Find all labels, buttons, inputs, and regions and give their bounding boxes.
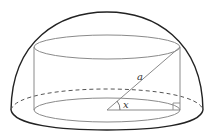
label-a: a <box>137 71 143 82</box>
cylinder-top-ellipse <box>34 35 180 59</box>
hemisphere-base-front <box>11 110 203 130</box>
angle-x-arc <box>117 101 120 110</box>
label-x: x <box>123 99 129 110</box>
hemisphere-base-back <box>11 89 203 110</box>
hemisphere-cylinder-diagram: a x <box>0 0 214 134</box>
diagonal-a <box>107 47 180 110</box>
